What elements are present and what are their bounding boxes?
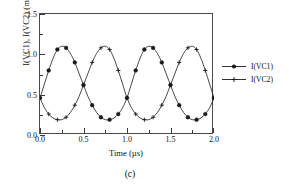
data-point-marker (108, 118, 112, 122)
plot-canvas (40, 14, 214, 135)
y-tick-minor (40, 115, 43, 116)
data-point-marker (116, 112, 120, 116)
x-tick-minor (192, 130, 193, 133)
data-point-marker (64, 46, 68, 50)
data-point-marker (177, 60, 181, 64)
y-tick-label: 1.0 (27, 50, 37, 59)
series-line (40, 46, 214, 120)
legend-label: I(VC2) (251, 75, 273, 84)
y-tick-major (40, 54, 45, 55)
x-tick-label: 1.5 (166, 135, 176, 144)
figure-caption: (c) (0, 168, 260, 179)
data-point-marker (47, 69, 51, 73)
data-point-marker (73, 103, 77, 107)
data-point-marker (90, 60, 94, 64)
data-point-marker (203, 112, 207, 116)
data-point-marker (195, 118, 199, 122)
legend-label: I(VC1) (251, 62, 273, 71)
circle-marker-icon (221, 61, 247, 72)
x-axis-label: Time (µs) (39, 148, 213, 158)
series-ivc1 (40, 46, 214, 122)
figure: I(VC1), I(VC2) (mA) 0.00.51.01.5 0.00.51… (0, 0, 289, 191)
x-tick-minor (149, 130, 150, 133)
data-point-marker (73, 61, 77, 65)
data-point-marker (186, 115, 190, 119)
data-series-layer (40, 46, 214, 122)
data-point-marker (55, 118, 59, 122)
y-tick-label: 1.5 (27, 10, 37, 19)
y-tick-label: 0.5 (27, 90, 37, 99)
data-point-marker (160, 103, 164, 107)
data-point-marker (99, 115, 103, 119)
data-point-marker (151, 46, 155, 50)
x-tick-major (213, 128, 214, 133)
plus-marker-icon (221, 74, 247, 85)
data-point-marker (142, 118, 146, 122)
x-tick-minor (105, 130, 106, 133)
x-tick-major (84, 128, 85, 133)
x-tick-label: 0.0 (35, 135, 45, 144)
data-point-marker (143, 48, 147, 52)
y-tick-major (40, 95, 45, 96)
x-tick-major (171, 128, 172, 133)
legend: I(VC1)I(VC2) (221, 61, 287, 87)
data-point-marker (160, 61, 164, 65)
x-tick-major (127, 128, 128, 133)
y-tick-minor (40, 34, 43, 35)
x-tick-minor (62, 130, 63, 133)
y-tick-major (40, 14, 45, 15)
series-ivc2 (40, 46, 214, 122)
y-tick-minor (40, 75, 43, 76)
x-tick-label: 1.0 (122, 135, 132, 144)
plot-area: 0.00.51.01.5 0.00.51.01.52.0 (39, 13, 213, 134)
data-point-marker (116, 68, 120, 72)
data-point-marker (203, 68, 207, 72)
legend-item[interactable]: I(VC1) (221, 61, 287, 72)
legend-item[interactable]: I(VC2) (221, 74, 287, 85)
data-point-marker (90, 103, 94, 107)
data-point-marker (56, 48, 60, 52)
data-point-marker (134, 69, 138, 73)
series-line (40, 46, 214, 120)
x-tick-label: 2.0 (209, 135, 219, 144)
data-point-marker (177, 103, 181, 107)
x-tick-major (40, 128, 41, 133)
x-tick-label: 0.5 (79, 135, 89, 144)
